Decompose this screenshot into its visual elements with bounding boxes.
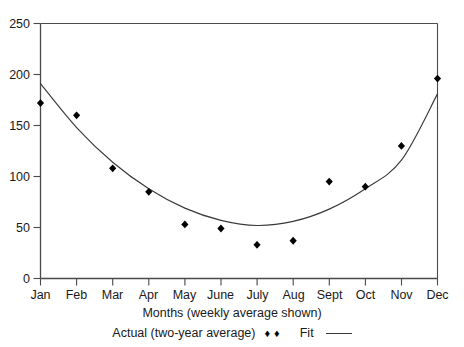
chart-figure: 250 200 150 100 50 0 Jan Feb Mar Apr May… <box>0 0 464 347</box>
x-tick-label-dec: Dec <box>411 289 464 302</box>
x-axis-title: Months (weekly average shown) <box>0 307 464 320</box>
data-point-markers <box>37 75 441 249</box>
legend-line-swatch <box>326 333 352 334</box>
data-point-oct <box>362 183 369 191</box>
data-point-sept <box>326 178 333 186</box>
data-point-mar <box>109 164 116 172</box>
legend-diamond-icon-1: ♦ <box>264 328 270 339</box>
legend-diamond-icon-2: ♦ <box>274 328 280 339</box>
x-axis-ticks <box>41 279 438 286</box>
legend-label-actual: Actual (two-year average) <box>112 327 255 340</box>
data-point-aug <box>290 237 297 245</box>
y-tick-label-250: 250 <box>0 18 30 31</box>
y-axis-ticks <box>34 24 41 279</box>
y-tick-label-0: 0 <box>0 273 30 286</box>
y-tick-label-50: 50 <box>0 222 30 235</box>
y-tick-label-200: 200 <box>0 69 30 82</box>
y-tick-label-100: 100 <box>0 171 30 184</box>
data-point-feb <box>73 111 80 119</box>
data-point-nov <box>398 142 405 150</box>
data-point-may <box>181 221 188 229</box>
data-point-june <box>217 225 224 233</box>
data-point-dec <box>434 75 441 83</box>
data-point-july <box>253 241 260 249</box>
chart-legend: Actual (two-year average) ♦ ♦ Fit <box>0 327 464 340</box>
data-point-jan <box>37 99 44 107</box>
legend-label-fit: Fit <box>300 327 314 340</box>
fit-curve <box>41 84 438 226</box>
data-point-apr <box>145 188 152 196</box>
y-tick-label-150: 150 <box>0 120 30 133</box>
